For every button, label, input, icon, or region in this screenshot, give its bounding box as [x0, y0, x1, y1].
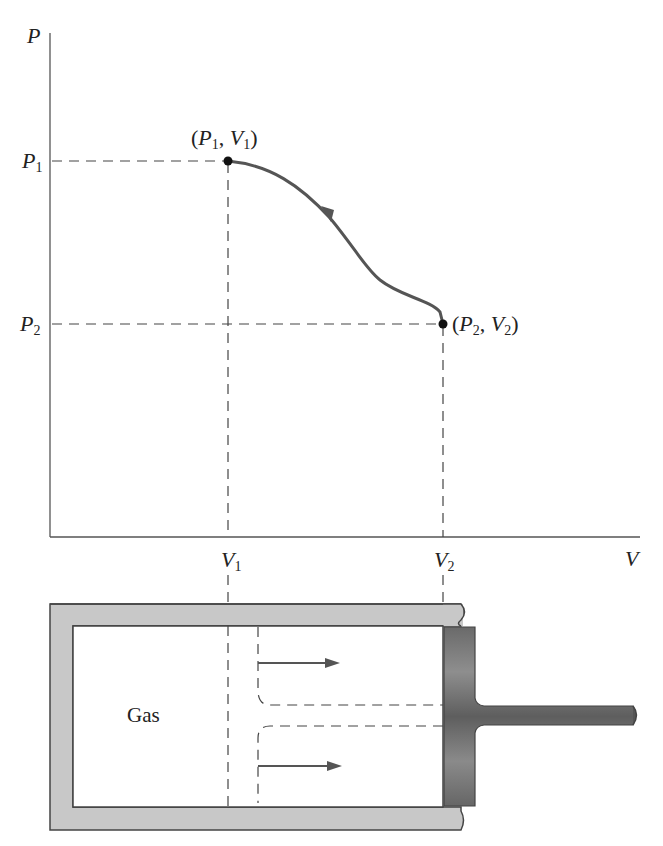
- v2-tick-label: V2: [434, 549, 454, 574]
- pv-diagram-figure: P V P1 P2 V1 V2 (P1, V1) (P2, V2) Gas: [0, 0, 663, 846]
- point-2-marker: [439, 320, 448, 329]
- point-2-label: (P2, V2): [452, 313, 519, 338]
- p2-tick-label: P2: [20, 313, 40, 338]
- point-1-label: (P1, V1): [191, 127, 258, 152]
- gas-label: Gas: [127, 705, 160, 726]
- piston: [444, 627, 636, 806]
- x-axis-label: V: [625, 548, 638, 570]
- p1-tick-label: P1: [22, 150, 42, 175]
- axes: [50, 33, 640, 537]
- y-axis-label: P: [27, 25, 40, 47]
- process-curve: [228, 161, 443, 324]
- point-1-marker: [224, 157, 233, 166]
- v1-tick-label: V1: [221, 549, 241, 574]
